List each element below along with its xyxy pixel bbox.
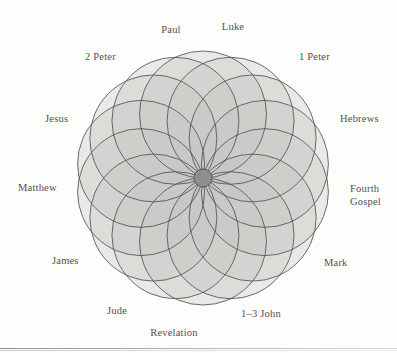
rosette-petal-fill [112,57,239,184]
node-label-hebrews: Hebrews [340,113,379,126]
rosette-svg [0,0,397,353]
node-label-jesus: Jesus [45,113,68,126]
node-label-fourth-gospel: Fourth Gospel [350,183,396,208]
node-label-jude: Jude [87,305,147,318]
node-label-mark: Mark [324,257,348,270]
node-label-1-peter: 1 Peter [299,51,330,64]
page-edge-rule-secondary [0,350,397,351]
node-label-1-3-john: 1–3 John [231,308,291,321]
rosette-center-node [194,169,212,187]
node-label-luke: Luke [203,21,263,34]
node-label-james: James [52,255,79,268]
node-label-revelation: Revelation [144,327,204,340]
node-label-2-peter: 2 Peter [85,51,116,64]
page-edge-rule [0,348,397,349]
node-label-paul: Paul [141,24,201,37]
node-label-matthew: Matthew [18,182,57,195]
rosette-figure: PaulLuke1 PeterHebrewsFourth GospelMark1… [0,0,397,353]
